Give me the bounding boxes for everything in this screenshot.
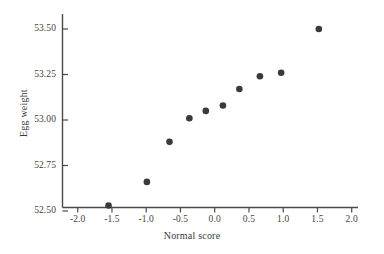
data-point: [105, 202, 112, 209]
y-tick-label-4: 53.50: [22, 23, 56, 33]
data-point: [236, 86, 243, 93]
data-point: [316, 26, 323, 33]
data-point: [144, 179, 151, 186]
data-point: [202, 108, 209, 115]
x-axis-title: Normal score: [0, 230, 384, 241]
axes-group: [63, 14, 359, 213]
data-point: [278, 69, 285, 76]
data-point: [166, 139, 173, 146]
data-point: [257, 73, 264, 80]
y-tick-label-1: 52.75: [22, 160, 56, 170]
y-tick-label-3: 53.25: [22, 69, 56, 79]
x-tick-label-8: 2.0: [332, 214, 372, 224]
data-point: [186, 115, 193, 122]
data-points-group: [105, 26, 322, 209]
data-point: [220, 102, 227, 109]
y-axis-title: Egg weight: [18, 89, 29, 137]
normal-probability-plot-figure: 52.5052.7553.0053.2553.50 -2.0-1.5-1.0-0…: [0, 0, 384, 254]
y-tick-label-0: 52.50: [22, 205, 56, 215]
